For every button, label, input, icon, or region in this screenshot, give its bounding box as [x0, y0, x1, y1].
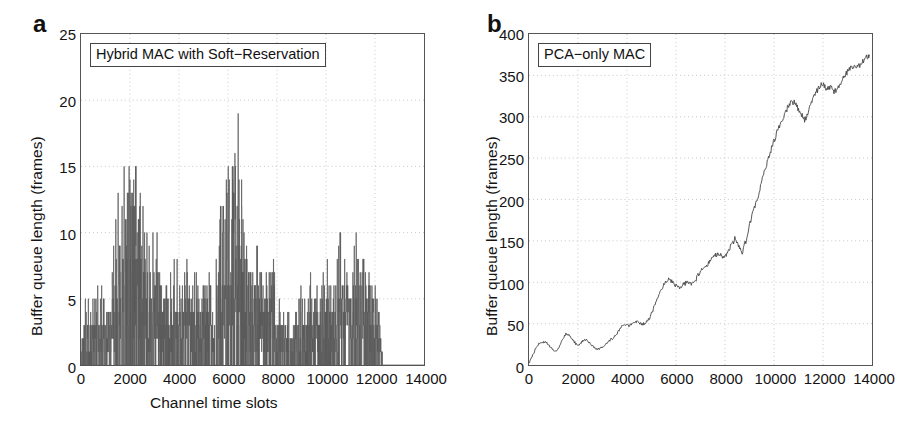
panel-0-x-tick-14000: 14000: [405, 370, 447, 387]
panel-a-y-axis-label: Buffer queue length (frames): [28, 136, 46, 336]
panel-1-x-tick-10000: 10000: [755, 370, 797, 387]
panel-1-y-tick-300: 300: [499, 109, 524, 126]
panel-0-y-tick-20: 20: [59, 92, 76, 109]
panel-0-x-tick-12000: 12000: [356, 370, 398, 387]
panel-a-legend: Hybrid MAC with Soft−Reservation: [90, 43, 326, 67]
panel-1-y-tick-150: 150: [499, 234, 524, 251]
panel-0-x-tick-4000: 4000: [163, 370, 196, 387]
panel-1-y-tick-0: 0: [516, 359, 524, 376]
panel-1-y-tick-200: 200: [499, 192, 524, 209]
panel-1-x-tick-12000: 12000: [804, 370, 846, 387]
panel-0-x-tick-8000: 8000: [261, 370, 294, 387]
panel-b: b Buffer queue length (frames) Channel t…: [461, 0, 923, 426]
queue-length-trace: [81, 113, 424, 365]
gridlines: [529, 34, 872, 365]
panel-1-x-tick-2000: 2000: [562, 370, 595, 387]
panel-0-x-tick-2000: 2000: [114, 370, 147, 387]
panel-1-x-tick-6000: 6000: [660, 370, 693, 387]
queue-length-trace: [529, 55, 870, 364]
panel-b-legend: PCA−only MAC: [538, 43, 651, 67]
panel-1-y-tick-250: 250: [499, 150, 524, 167]
panel-0-y-tick-0: 0: [68, 359, 76, 376]
panel-0-y-tick-10: 10: [59, 225, 76, 242]
panel-1-x-tick-0: 0: [525, 370, 533, 387]
panel-a-x-axis-label: Channel time slots: [150, 394, 278, 412]
panel-1-x-tick-14000: 14000: [853, 370, 895, 387]
panel-1-y-tick-100: 100: [499, 275, 524, 292]
panel-1-y-tick-400: 400: [499, 26, 524, 43]
panel-0-x-tick-10000: 10000: [307, 370, 349, 387]
panel-0-y-tick-5: 5: [68, 292, 76, 309]
panel-a-plot-area: Hybrid MAC with Soft−Reservation 0510152…: [80, 33, 425, 366]
panel-a-letter: a: [33, 12, 46, 36]
panel-1-y-tick-350: 350: [499, 67, 524, 84]
panel-a: a Buffer queue length (frames) Channel t…: [0, 0, 462, 426]
panel-1-y-tick-50: 50: [507, 317, 524, 334]
panel-0-x-tick-0: 0: [77, 370, 85, 387]
figure-container: a Buffer queue length (frames) Channel t…: [0, 0, 923, 426]
panel-b-plot-area: PCA−only MAC 050100150200250300350400020…: [528, 33, 873, 366]
panel-1-x-tick-8000: 8000: [709, 370, 742, 387]
panel-a-plot-svg: [81, 34, 424, 365]
panel-0-y-tick-15: 15: [59, 159, 76, 176]
panel-b-plot-svg: [529, 34, 872, 365]
panel-0-x-tick-6000: 6000: [212, 370, 245, 387]
panel-1-x-tick-4000: 4000: [611, 370, 644, 387]
panel-0-y-tick-25: 25: [59, 26, 76, 43]
